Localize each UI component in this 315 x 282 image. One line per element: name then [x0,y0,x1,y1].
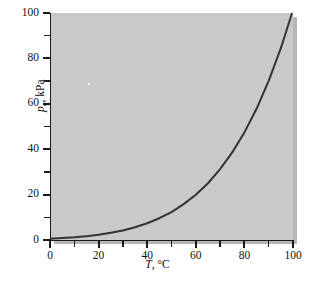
y-axis-line [50,13,51,241]
x-tick-minor-10 [74,241,76,247]
x-tick-major-60 [195,241,197,248]
x-tick-minor-90 [268,241,270,247]
y-tick-minor-30 [44,171,50,173]
y-tick-major-20 [43,194,50,196]
y-tick-label-0: 0 [9,233,39,245]
x-tick-minor-70 [219,241,221,247]
x-axis-title: T, °C [0,258,315,270]
y-tick-label-40: 40 [9,142,39,154]
paper-speck [88,83,90,85]
vapor-pressure-chart: 020406080100020406080100 T, °C pv, kPa [0,0,315,282]
y-tick-minor-10 [44,217,50,219]
y-tick-major-100 [43,12,50,14]
x-tick-major-80 [243,241,245,248]
y-tick-label-20: 20 [9,187,39,199]
x-tick-major-20 [98,241,100,248]
x-axis-units: , °C [152,258,170,270]
x-tick-major-40 [146,241,148,248]
x-tick-major-100 [292,241,294,248]
y-axis-subscript: v [40,102,50,106]
y-axis-symbol: p [34,106,46,112]
data-curve-svg [50,13,293,240]
x-tick-major-0 [49,241,51,248]
data-curve [50,13,293,239]
y-tick-major-40 [43,148,50,150]
y-tick-label-100: 100 [9,6,39,18]
x-tick-minor-50 [171,241,173,247]
plot-area [50,13,293,240]
x-tick-minor-30 [122,241,124,247]
y-axis-units: , kPa [34,79,46,102]
y-tick-minor-90 [44,35,50,37]
y-axis-title: pv, kPa [34,56,49,136]
